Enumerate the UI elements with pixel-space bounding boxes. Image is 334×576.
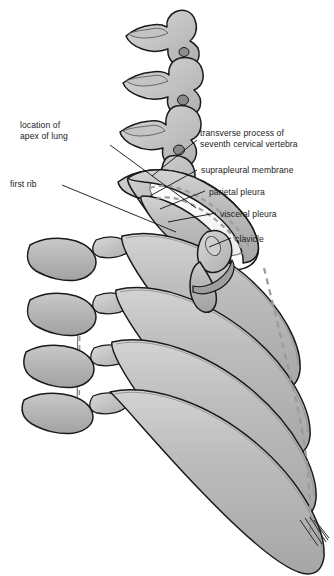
label-visceral-pleura: visceral pleura	[220, 209, 277, 220]
label-first-rib: first rib	[10, 179, 37, 190]
label-transverse-process-c7-line1: transverse process of	[200, 128, 298, 139]
label-apex-of-lung-line1: location of	[20, 120, 68, 131]
label-parietal-pleura: parietal pleura	[209, 187, 265, 198]
label-suprapleural-membrane: suprapleural membrane	[201, 165, 294, 176]
label-visceral-pleura-line1: visceral pleura	[220, 209, 277, 220]
label-parietal-pleura-line1: parietal pleura	[209, 187, 265, 198]
label-suprapleural-membrane-line1: suprapleural membrane	[201, 165, 294, 176]
anatomy-figure: location of apex of lung first rib trans…	[0, 0, 334, 576]
thoracic-vertebrae	[22, 237, 130, 434]
label-transverse-process-c7-line2: seventh cervical vertebra	[200, 139, 298, 150]
label-clavicle-line1: clavicle	[235, 234, 264, 245]
label-apex-of-lung: location of apex of lung	[20, 120, 68, 143]
label-first-rib-line1: first rib	[10, 179, 37, 190]
label-clavicle: clavicle	[235, 234, 264, 245]
label-apex-of-lung-line2: apex of lung	[20, 131, 68, 142]
anatomy-illustration	[0, 0, 334, 576]
label-transverse-process-c7: transverse process of seventh cervical v…	[200, 128, 298, 151]
